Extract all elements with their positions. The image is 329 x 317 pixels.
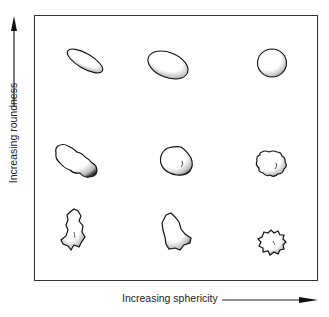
grain-r2-c1 (56, 145, 97, 178)
grain-r3-c3 (258, 230, 286, 255)
y-axis-label-text: Increasing roundness (7, 83, 19, 183)
grain-r2-c3 (256, 151, 286, 176)
x-axis-arrow-icon (222, 297, 318, 303)
grain-r1-c1 (64, 45, 106, 78)
x-axis-label: Increasing sphericity (122, 292, 218, 304)
grain-r2-c2 (160, 147, 192, 176)
grain-r3-c2 (162, 213, 191, 250)
grain-r3-c1 (61, 209, 85, 250)
grain-r1-c2 (144, 46, 192, 85)
grain-shapes (0, 0, 329, 317)
grain-r1-c3 (258, 49, 287, 77)
